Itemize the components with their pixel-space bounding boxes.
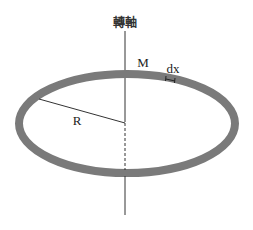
ring (19, 74, 235, 173)
radius-line (39, 99, 125, 123)
mass-label: M (137, 55, 149, 70)
diagram-svg: 轉軸 M dx R (0, 0, 253, 230)
element-label: dx (167, 61, 181, 76)
axis-label: 轉軸 (113, 15, 137, 30)
radius-label: R (73, 113, 82, 128)
ring-rotation-diagram: 轉軸 M dx R (0, 0, 253, 230)
